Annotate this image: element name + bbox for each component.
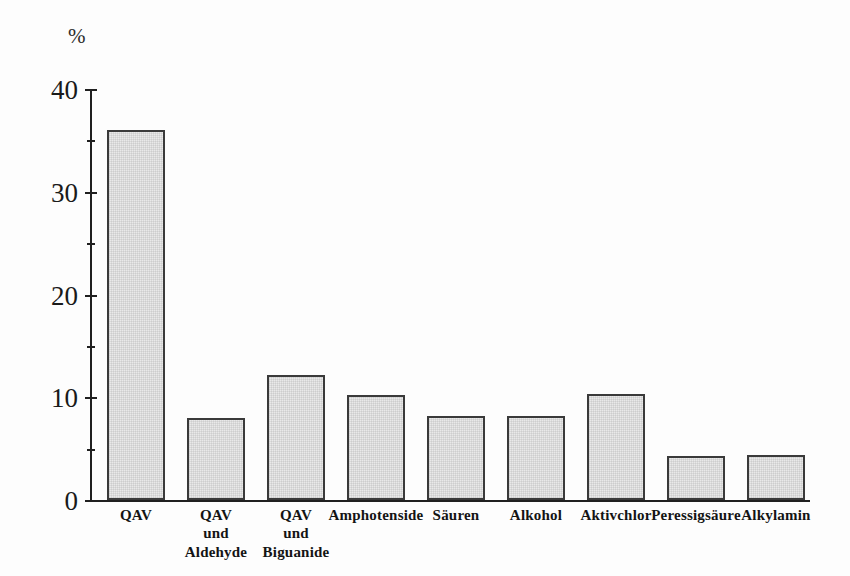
bar xyxy=(427,416,485,500)
y-tick-mark xyxy=(85,500,97,502)
y-tick-mark xyxy=(87,346,95,348)
y-tick-mark xyxy=(87,449,95,451)
y-tick-mark xyxy=(85,397,97,399)
category-label: QAV und Aldehyde xyxy=(185,506,247,561)
y-tick-mark xyxy=(87,243,95,245)
bar xyxy=(747,455,805,500)
bar xyxy=(187,418,245,500)
category-label: Peressigsäure xyxy=(651,506,741,524)
bar xyxy=(587,394,645,500)
bar xyxy=(347,395,405,500)
category-label: QAV xyxy=(120,506,152,524)
y-tick-label: 20 xyxy=(51,282,78,309)
y-tick-mark xyxy=(87,140,95,142)
bar xyxy=(507,416,565,500)
y-tick-label: 10 xyxy=(51,385,78,412)
y-axis-unit-label: % xyxy=(68,26,86,47)
y-tick-mark xyxy=(85,192,97,194)
y-tick-label: 40 xyxy=(51,77,78,104)
bar-chart-figure: % 010203040 QAVQAV und AldehydeQAV und B… xyxy=(0,0,850,576)
bar xyxy=(667,456,725,500)
y-tick-label: 0 xyxy=(65,488,79,515)
category-label: QAV und Biguanide xyxy=(263,506,330,561)
y-tick-mark xyxy=(85,295,97,297)
category-label: Amphotenside xyxy=(329,506,424,524)
bar xyxy=(267,375,325,500)
y-tick-label: 30 xyxy=(51,179,78,206)
y-tick-mark xyxy=(85,89,97,91)
category-label: Aktivchlor xyxy=(580,506,651,524)
category-label: Alkylamin xyxy=(741,506,810,524)
bar xyxy=(107,130,165,500)
plot-area: 010203040 QAVQAV und AldehydeQAV und Big… xyxy=(90,89,810,500)
category-label: Säuren xyxy=(433,506,480,524)
category-label: Alkohol xyxy=(510,506,562,524)
x-axis-line xyxy=(90,500,810,502)
